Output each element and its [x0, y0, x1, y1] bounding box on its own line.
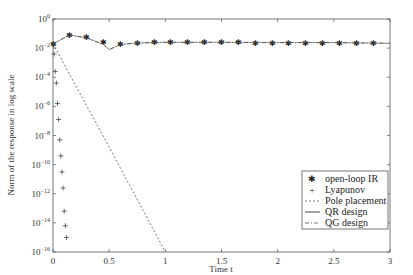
- x-tick-label: 3: [388, 256, 393, 266]
- legend-item-lyapunov: Lyapunov: [325, 184, 365, 195]
- x-tick-label: 1: [163, 256, 168, 266]
- y-tick-label: 100: [38, 13, 50, 24]
- open-loop-star-marker: ✱: [353, 39, 360, 48]
- open-loop-star-marker: ✱: [100, 38, 107, 47]
- open-loop-star-marker: ✱: [269, 39, 276, 48]
- legend-item-qr: QR design: [325, 206, 368, 217]
- y-tick-label: 10−16: [32, 246, 50, 257]
- legend-star-icon: ✱: [308, 174, 316, 184]
- open-loop-star-marker: ✱: [319, 39, 326, 48]
- y-tick-label: 10−12: [32, 188, 50, 199]
- open-loop-star-marker: ✱: [184, 38, 191, 47]
- y-tick-label: 10−10: [32, 159, 50, 170]
- open-loop-star-marker: ✱: [201, 38, 208, 47]
- legend: ✱ open-loop IR + Lyapunov Pole placement…: [302, 171, 388, 229]
- open-loop-star-marker: ✱: [285, 39, 292, 48]
- open-loop-star-marker: ✱: [302, 39, 309, 48]
- open-loop-star-marker: ✱: [218, 38, 225, 47]
- open-loop-star-marker: ✱: [252, 39, 259, 48]
- legend-item-qg: QG design: [325, 217, 368, 228]
- y-tick-label: 10−14: [32, 217, 50, 228]
- y-tick-label: 10−6: [35, 100, 50, 111]
- open-loop-star-marker: ✱: [134, 39, 141, 48]
- open-loop-star-marker: ✱: [117, 40, 124, 49]
- y-tick-label: 10−2: [35, 42, 50, 53]
- chart: 00.511.522.53 10010−210−410−610−810−1010…: [0, 0, 413, 275]
- legend-item-pole-placement: Pole placement: [325, 195, 387, 206]
- x-tick-label: 0.5: [104, 256, 116, 266]
- open-loop-star-marker: ✱: [235, 38, 242, 47]
- x-tick-label: 0: [51, 256, 56, 266]
- y-tick-label: 10−8: [35, 130, 50, 141]
- x-tick-label: 2: [275, 256, 280, 266]
- legend-item-open-loop: open-loop IR: [325, 173, 378, 184]
- y-axis-title: Norm of the response in log scale: [6, 75, 16, 196]
- y-tick-label: 10−4: [35, 71, 50, 82]
- open-loop-star-marker: ✱: [336, 39, 343, 48]
- open-loop-star-marker: ✱: [167, 38, 174, 47]
- open-loop-star-marker: ✱: [370, 39, 377, 48]
- x-axis-title: Time t: [209, 264, 233, 274]
- legend-plus-icon: +: [309, 185, 314, 195]
- x-tick-label: 2.5: [328, 256, 340, 266]
